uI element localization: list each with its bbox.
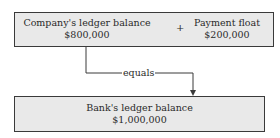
bank-ledger-value: $1,000,000 <box>15 114 264 126</box>
equals-label: equals <box>122 67 155 78</box>
bank-ledger-balance: Bank's ledger balance $1,000,000 <box>15 102 264 126</box>
bottom-box: Bank's ledger balance $1,000,000 <box>14 96 265 132</box>
bank-ledger-label: Bank's ledger balance <box>15 102 264 114</box>
